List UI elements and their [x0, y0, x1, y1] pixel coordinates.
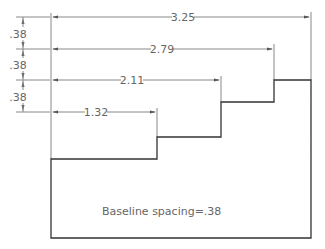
dim-label-1-32: 1.32 — [84, 106, 109, 119]
horizontal-dimension-lines — [53, 17, 309, 112]
dim-label-v3: .38 — [9, 91, 27, 104]
dim-label-2-79: 2.79 — [150, 43, 175, 56]
dim-label-2-11: 2.11 — [120, 74, 145, 87]
baseline-note: Baseline spacing=.38 — [102, 205, 221, 218]
arrowheads — [22, 16, 311, 114]
dim-label-3-25: 3.25 — [171, 11, 196, 24]
dim-label-v2: .38 — [9, 59, 27, 72]
stair-dimension-drawing: 3.25 2.79 2.11 1.32 .38 .38 .38 Baseline… — [0, 0, 325, 249]
dim-label-v1: .38 — [9, 28, 27, 41]
